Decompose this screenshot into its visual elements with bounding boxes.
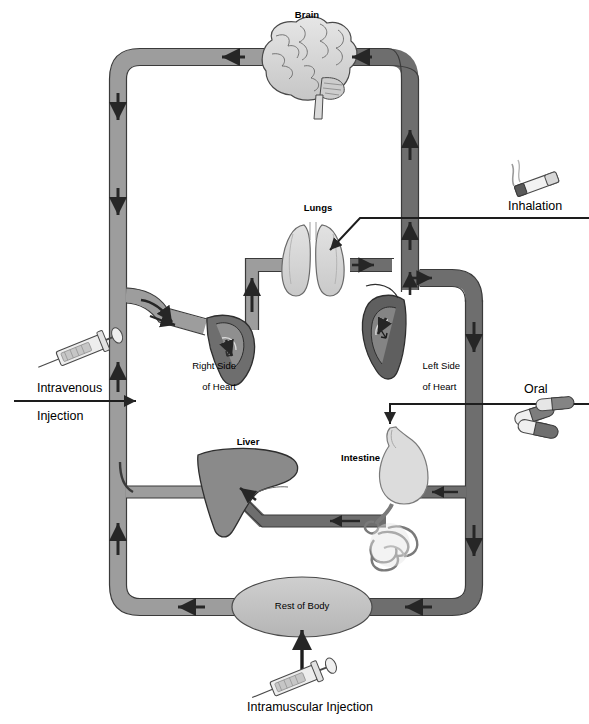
vein-outline-outer	[110, 49, 301, 616]
lungs-label: Lungs	[304, 203, 333, 214]
stomach-shape	[379, 427, 428, 504]
venous-circuit	[110, 49, 301, 616]
liver-label: Liver	[237, 437, 260, 448]
left-heart-label: Left Side of Heart	[412, 350, 486, 403]
intravenous-label: Intravenous Injection	[23, 367, 102, 437]
left-heart-illustration	[362, 285, 406, 380]
intestine-label: Intestine	[341, 453, 380, 464]
right-lung-shape	[316, 225, 344, 296]
brain-label: Brain	[295, 10, 319, 21]
left-heart-label-line1: Left Side	[423, 360, 461, 371]
intestine-illustration	[365, 427, 428, 570]
right-heart-label: Right Side of Heart	[168, 350, 236, 403]
pills-icon	[513, 396, 574, 439]
hepatic-portal-vein	[238, 497, 386, 521]
intravenous-label-line1: Intravenous	[37, 381, 102, 395]
arterial-circuit	[234, 49, 483, 616]
intramuscular-label: Intramuscular Injection	[247, 700, 373, 714]
right-heart-label-line1: Right Side	[192, 360, 236, 371]
oral-label: Oral	[524, 382, 548, 396]
intravenous-label-line2: Injection	[37, 409, 84, 423]
left-heart-label-line2: of Heart	[423, 381, 457, 392]
right-heart-label-line2: of Heart	[202, 381, 236, 392]
lungs-illustration	[282, 222, 344, 296]
inhalation-label: Inhalation	[508, 199, 562, 213]
brain-illustration	[262, 17, 357, 119]
carotid-artery	[345, 57, 410, 290]
inhalation-leader	[330, 218, 589, 250]
rest-of-body-label: Rest of Body	[275, 601, 329, 612]
circulation-diagram	[0, 0, 589, 724]
diagram-canvas: Brain Lungs Liver Intestine Right Side o…	[0, 0, 589, 724]
cigarette-icon	[512, 160, 559, 197]
left-lung-shape	[282, 225, 310, 296]
